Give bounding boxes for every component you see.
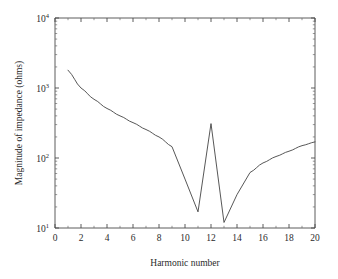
x-tick-label: 6 xyxy=(131,233,136,243)
x-tick-label: 14 xyxy=(232,233,242,243)
x-tick-label: 10 xyxy=(180,233,190,243)
chart-svg: 02468101214161820 101102103104 Harmonic … xyxy=(0,0,338,279)
x-tick-label: 2 xyxy=(79,233,84,243)
figure-container: 02468101214161820 101102103104 Harmonic … xyxy=(0,0,338,279)
x-tick-label: 20 xyxy=(310,233,320,243)
y-axis-tick-labels: 101102103104 xyxy=(36,12,50,234)
x-tick-label: 12 xyxy=(206,233,216,243)
y-axis-ticks xyxy=(55,18,315,228)
impedance-curve xyxy=(68,70,315,222)
x-tick-label: 8 xyxy=(157,233,162,243)
x-axis-ticks xyxy=(55,18,315,228)
x-tick-label: 0 xyxy=(53,233,58,243)
x-tick-label: 18 xyxy=(284,233,294,243)
y-tick-label: 101 xyxy=(36,222,49,234)
x-axis-tick-labels: 02468101214161820 xyxy=(53,233,320,243)
x-tick-label: 4 xyxy=(105,233,110,243)
x-tick-label: 16 xyxy=(258,233,268,243)
y-tick-label: 103 xyxy=(36,82,49,94)
y-tick-label: 102 xyxy=(36,152,49,164)
y-tick-label: 104 xyxy=(36,12,50,24)
axes-box xyxy=(55,18,315,228)
plot-frame xyxy=(55,18,315,228)
y-axis-label: Magnitude of impedance (ohms) xyxy=(14,61,25,185)
x-axis-label: Harmonic number xyxy=(150,258,220,268)
